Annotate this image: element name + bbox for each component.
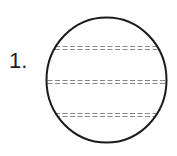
- divider-lines: [40, 47, 175, 117]
- circle-figure: [0, 0, 177, 156]
